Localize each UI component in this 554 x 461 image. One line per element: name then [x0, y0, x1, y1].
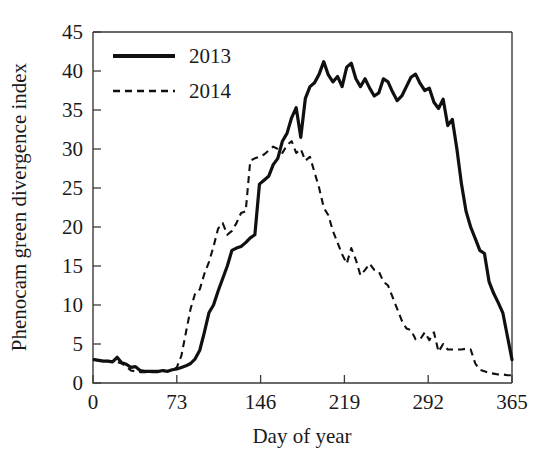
y-tick-label: 30: [62, 137, 83, 161]
y-tick-label: 0: [73, 371, 84, 395]
chart-svg: 073146219292365 051015202530354045 Day o…: [0, 0, 554, 461]
x-axis-title: Day of year: [252, 424, 351, 448]
legend-label-2013: 2013: [189, 44, 231, 68]
y-tick-label: 5: [73, 332, 84, 356]
x-tick-label: 365: [496, 390, 528, 414]
y-tick-label: 40: [62, 59, 83, 83]
y-tick-label: 35: [62, 98, 83, 122]
x-tick-label: 0: [88, 390, 99, 414]
x-tick-label: 146: [245, 390, 277, 414]
legend-label-2014: 2014: [189, 79, 232, 103]
y-tick-label: 25: [62, 176, 83, 200]
y-axis-title: Phenocam green divergence index: [7, 62, 31, 351]
x-tick-label: 292: [412, 390, 444, 414]
y-tick-label: 10: [62, 293, 83, 317]
y-tick-label: 20: [62, 215, 83, 239]
phenocam-green-divergence-chart: 073146219292365 051015202530354045 Day o…: [0, 0, 554, 461]
x-tick-label: 73: [166, 390, 187, 414]
y-tick-label: 45: [62, 20, 83, 44]
x-tick-label: 219: [329, 390, 361, 414]
y-tick-label: 15: [62, 254, 83, 278]
